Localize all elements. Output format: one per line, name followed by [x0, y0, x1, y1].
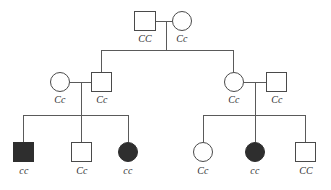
mating-line-generation-1 [156, 21, 172, 22]
individual-I-2-female-circle[interactable] [172, 11, 192, 31]
sibship-drop-III-1 [23, 115, 24, 142]
descent-stem-generation-2-right [255, 82, 256, 115]
genotype-label-III-5: cc [235, 165, 275, 176]
sibship-drop-II-3 [233, 50, 234, 72]
individual-II-4-male-square[interactable] [266, 72, 287, 92]
individual-III-6-male-square[interactable] [295, 142, 316, 162]
sibship-drop-II-2 [101, 50, 102, 72]
individual-III-1-male-square-affected[interactable] [13, 142, 34, 162]
genotype-label-III-6: CC [286, 165, 326, 176]
individual-II-1-female-circle[interactable] [50, 72, 70, 92]
sibship-drop-III-6 [305, 115, 306, 142]
sibship-drop-III-4 [203, 115, 204, 142]
genotype-label-I-1: CC [125, 33, 165, 44]
sibship-bar-generation-3-left [23, 115, 128, 116]
individual-II-3-female-circle[interactable] [224, 72, 244, 92]
individual-I-1-male-square[interactable] [134, 11, 156, 31]
individual-III-5-female-circle-affected[interactable] [245, 142, 265, 162]
sibship-bar-generation-2 [101, 50, 234, 51]
sibship-drop-III-3 [128, 115, 129, 142]
sibship-drop-III-5 [255, 115, 256, 142]
individual-III-2-male-square[interactable] [71, 142, 92, 162]
descent-stem-generation-2-left [81, 82, 82, 115]
genotype-label-III-1: cc [4, 165, 44, 176]
genotype-label-III-2: Cc [62, 165, 102, 176]
pedigree-chart: CC Cc Cc Cc Cc Cc cc Cc cc Cc cc CC [0, 0, 331, 190]
genotype-label-III-4: Cc [183, 165, 223, 176]
genotype-label-III-3: cc [108, 165, 148, 176]
genotype-label-II-1: Cc [40, 94, 80, 105]
descent-stem-generation-1 [166, 21, 167, 50]
sibship-drop-III-2 [81, 115, 82, 142]
sibship-bar-generation-3-right [203, 115, 305, 116]
individual-III-4-female-circle[interactable] [193, 142, 213, 162]
genotype-label-II-2: Cc [82, 94, 122, 105]
genotype-label-I-2: Cc [162, 33, 202, 44]
individual-II-2-male-square[interactable] [91, 72, 112, 92]
genotype-label-II-3: Cc [214, 94, 254, 105]
individual-III-3-female-circle-affected[interactable] [118, 142, 138, 162]
genotype-label-II-4: Cc [257, 94, 297, 105]
